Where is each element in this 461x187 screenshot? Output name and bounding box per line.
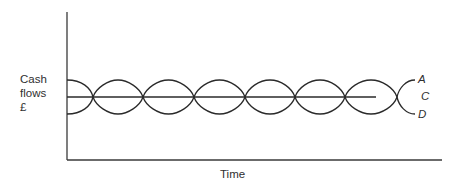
y-axis-label-line-1: Cash <box>20 72 47 86</box>
y-axis-label-line-2: flows <box>20 86 47 100</box>
y-axis-label: Cash flows £ <box>20 72 47 114</box>
cash-flow-diagram <box>0 0 461 187</box>
series-label-c: C <box>421 90 429 102</box>
x-axis-label: Time <box>220 168 245 180</box>
y-axis-label-line-3: £ <box>20 100 47 114</box>
series-label-d: D <box>418 108 426 120</box>
series-label-a: A <box>418 73 426 85</box>
